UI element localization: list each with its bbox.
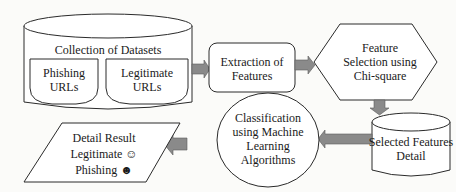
selected-features-label: Selected Features Detail	[368, 135, 454, 163]
phishing-urls-label: Phishing URLs	[30, 66, 98, 94]
classification-label: Classification using Machine Learning Al…	[218, 111, 318, 167]
extraction-label: Extraction of Features	[209, 55, 295, 83]
arrow-right-icon	[295, 56, 315, 74]
dark-smiley-face-icon: ☻	[120, 163, 133, 177]
arrow-right-icon	[192, 60, 210, 78]
arrow-down-icon	[370, 100, 389, 115]
result-label: Detail Result Legitimate ☺ Phishing ☻	[56, 130, 152, 178]
legitimate-urls-label: Legitimate URLs	[106, 66, 188, 94]
smiley-face-icon: ☺	[125, 147, 137, 161]
feature-selection-label: Feature Selection using Chi-square	[330, 41, 430, 83]
datasets-title: Collection of Datasets	[24, 43, 192, 57]
arrow-left-icon	[318, 130, 372, 148]
